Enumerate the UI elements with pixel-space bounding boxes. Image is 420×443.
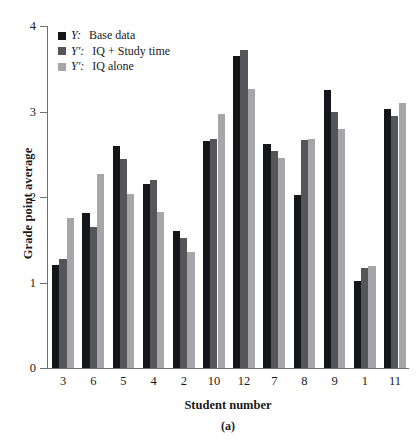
bar	[127, 194, 134, 368]
bar-group	[113, 26, 135, 368]
chart-legend: Y:Base dataY′:IQ + Study timeY′:IQ alone	[58, 28, 248, 75]
legend-color-swatch	[58, 47, 66, 55]
bar-group	[384, 26, 406, 368]
bar	[59, 259, 66, 368]
bar	[391, 116, 398, 368]
x-axis-line	[47, 368, 409, 369]
legend-label: IQ alone	[92, 59, 134, 74]
bar	[278, 158, 285, 368]
bar-series-container	[47, 26, 409, 368]
bar	[120, 159, 127, 368]
bar	[143, 184, 150, 368]
bar	[248, 89, 255, 368]
legend-symbol: Y:	[71, 28, 81, 43]
bar	[361, 268, 368, 368]
x-axis-tick-label: 6	[78, 374, 108, 389]
x-axis-tick-label: 9	[320, 374, 350, 389]
x-axis-tick-label: 12	[229, 374, 259, 389]
legend-symbol: Y′:	[71, 44, 84, 59]
x-axis-tick-label: 7	[259, 374, 289, 389]
bar-group	[294, 26, 316, 368]
y-axis-tick-label: 0	[30, 359, 36, 377]
bar	[180, 238, 187, 368]
bar	[113, 146, 120, 368]
bar	[368, 266, 375, 368]
bar-group	[324, 26, 346, 368]
bar	[82, 213, 89, 368]
y-axis-tick: 3	[40, 112, 47, 113]
bar	[150, 180, 157, 368]
legend-symbol: Y′:	[71, 59, 84, 74]
plot-area: 01234 365421012789111	[47, 26, 409, 368]
x-axis-tick-label: 11	[380, 374, 410, 389]
x-axis-tick-label: 10	[199, 374, 229, 389]
bar-group	[143, 26, 165, 368]
y-axis-tick-label: 4	[30, 17, 36, 35]
bar	[301, 140, 308, 368]
y-axis-tick-label: 3	[30, 103, 36, 121]
bar	[233, 56, 240, 368]
bar	[52, 265, 59, 368]
x-axis-title: Student number	[47, 398, 409, 413]
bar	[294, 195, 301, 368]
legend-color-swatch	[58, 63, 66, 71]
bar-chart-figure: Grade point average 01234 36542101278911…	[0, 0, 420, 443]
bar	[399, 103, 406, 368]
bar-group	[82, 26, 104, 368]
bar	[338, 129, 345, 368]
x-axis-tick-label: 2	[169, 374, 199, 389]
bar	[263, 144, 270, 368]
bar	[203, 141, 210, 368]
legend-item: Y′:IQ + Study time	[58, 44, 248, 60]
bar-group	[233, 26, 255, 368]
bar	[218, 114, 225, 368]
x-axis-tick-label: 1	[350, 374, 380, 389]
bar	[331, 112, 338, 369]
bar	[210, 139, 217, 368]
x-axis-tick-label: 3	[48, 374, 78, 389]
bar-group	[203, 26, 225, 368]
y-axis-tick: 4	[40, 26, 47, 27]
legend-color-swatch	[58, 32, 66, 40]
y-axis-tick: 2	[40, 197, 47, 198]
bar	[157, 212, 164, 368]
bar	[90, 227, 97, 368]
y-axis-tick: 0	[40, 368, 47, 369]
x-axis-tick-label: 8	[289, 374, 319, 389]
legend-item: Y′:IQ alone	[58, 59, 248, 75]
bar-group	[354, 26, 376, 368]
bar-group	[173, 26, 195, 368]
bar	[271, 151, 278, 368]
legend-label: Base data	[89, 28, 135, 43]
bar	[324, 90, 331, 368]
bar	[240, 50, 247, 368]
x-axis-tick-label: 4	[139, 374, 169, 389]
bar	[173, 231, 180, 368]
bar	[308, 139, 315, 368]
figure-subcaption: (a)	[47, 419, 409, 434]
y-axis-tick: 1	[40, 283, 47, 284]
bar-group	[263, 26, 285, 368]
y-axis-tick-label: 1	[30, 274, 36, 292]
y-axis-tick-label: 2	[30, 188, 36, 206]
x-axis-tick-label: 5	[108, 374, 138, 389]
legend-label: IQ + Study time	[92, 44, 170, 59]
bar	[187, 252, 194, 368]
bar-group	[52, 26, 74, 368]
bar	[97, 174, 104, 368]
legend-item: Y:Base data	[58, 28, 248, 44]
bar	[67, 218, 74, 368]
bar	[384, 109, 391, 368]
bar	[354, 281, 361, 368]
